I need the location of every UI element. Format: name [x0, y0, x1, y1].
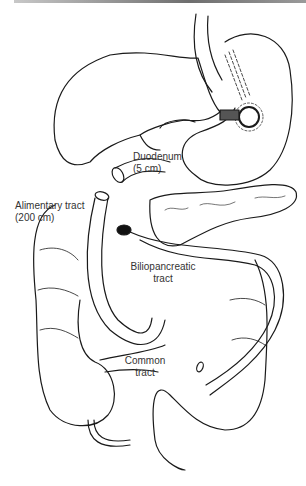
label-common-line2: tract — [122, 367, 168, 379]
anatomy-illustration — [0, 0, 306, 486]
gastric-pouch — [239, 107, 259, 127]
label-biliopancreatic-tract: Biliopancreatic tract — [128, 261, 198, 285]
label-biliopancreatic-line1: Biliopancreatic — [128, 261, 198, 273]
descending-colon — [153, 260, 267, 470]
label-alimentary-line1: Alimentary tract — [15, 200, 84, 212]
label-alimentary-tract: Alimentary tract (200 cm) — [15, 200, 84, 224]
label-biliopancreatic-line2: tract — [128, 273, 198, 285]
liver — [54, 53, 220, 165]
label-alimentary-line2: (200 cm) — [15, 212, 84, 224]
appendix — [88, 420, 130, 446]
label-duodenum-line1: Duodenum — [133, 151, 182, 163]
label-duodenum-line2: (5 cm) — [133, 163, 182, 175]
label-duodenum: Duodenum (5 cm) — [133, 151, 182, 175]
anastomosis — [117, 225, 131, 235]
label-common-tract: Common tract — [122, 355, 168, 379]
pancreas — [150, 185, 297, 246]
esophagus — [194, 14, 222, 92]
label-common-line1: Common — [122, 355, 168, 367]
